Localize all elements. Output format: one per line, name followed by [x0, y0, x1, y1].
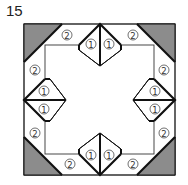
svg-text:2: 2: [32, 129, 37, 139]
svg-text:2: 2: [32, 66, 37, 76]
quilt-block-diagram: 2 2 2 2 2 2 2 2: [0, 0, 188, 185]
svg-text:1: 1: [106, 40, 111, 50]
svg-text:2: 2: [130, 31, 135, 41]
svg-text:1: 1: [152, 87, 157, 97]
svg-text:2: 2: [161, 129, 166, 139]
svg-text:2: 2: [67, 160, 72, 170]
svg-text:2: 2: [130, 160, 135, 170]
svg-text:2: 2: [161, 66, 166, 76]
svg-text:1: 1: [88, 151, 93, 161]
svg-text:1: 1: [41, 87, 46, 97]
svg-text:1: 1: [152, 105, 157, 115]
svg-text:1: 1: [106, 151, 111, 161]
svg-text:1: 1: [88, 40, 93, 50]
svg-text:2: 2: [64, 31, 69, 41]
svg-text:1: 1: [41, 105, 46, 115]
